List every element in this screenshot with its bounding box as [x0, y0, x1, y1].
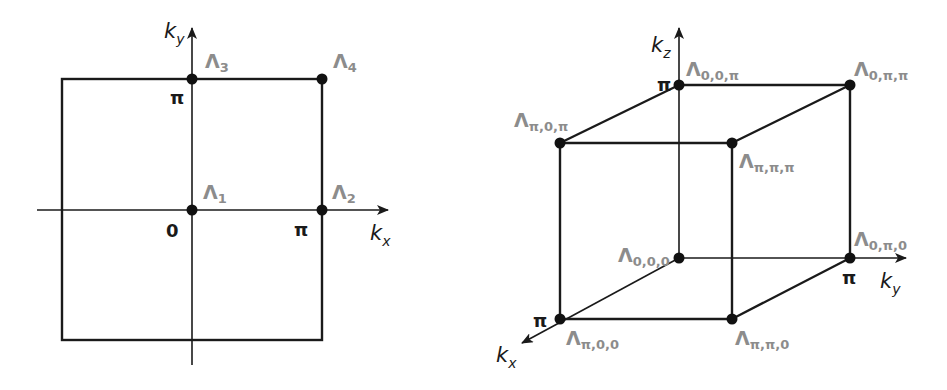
ky-axis-label-2d: ky — [164, 19, 185, 47]
point-lambda-0pipi — [845, 80, 856, 91]
kx-axis-label-3d: kx — [496, 343, 517, 371]
point-lambda-pipipi — [727, 138, 738, 149]
ky-pi-tick-2d: π — [170, 87, 184, 108]
figure-3d: kz ky kx π π π Λ0,0,0 Λ0,π,0 Λ0,0,π Λ0,π… — [496, 28, 908, 371]
ky-pi-tick-3d: π — [842, 267, 856, 288]
point-lambda-1 — [187, 205, 198, 216]
point-lambda-000 — [674, 253, 685, 264]
label-lambda-pi00: Λπ,0,0 — [566, 327, 619, 352]
point-lambda-2 — [317, 205, 328, 216]
kx-pi-tick-3d: π — [533, 310, 547, 331]
point-lambda-3 — [187, 74, 198, 85]
label-lambda-0pi0: Λ0,π,0 — [854, 228, 907, 253]
label-lambda-pi0pi: Λπ,0,π — [514, 109, 568, 134]
point-lambda-0pi0 — [845, 253, 856, 264]
point-lambda-4 — [317, 74, 328, 85]
label-lambda-1: Λ1 — [203, 181, 227, 206]
label-lambda-pipipi: Λπ,π,π — [739, 150, 794, 175]
kx-pi-tick-2d: π — [294, 219, 308, 240]
point-lambda-pipi0 — [727, 314, 738, 325]
kz-pi-tick-3d: π — [657, 74, 671, 95]
figure-2d: ky kx 0 π π Λ1 Λ2 Λ3 Λ4 — [37, 19, 391, 365]
origin-tick-2d: 0 — [166, 220, 179, 241]
label-lambda-4: Λ4 — [333, 50, 357, 75]
label-lambda-000: Λ0,0,0 — [618, 244, 670, 269]
label-lambda-00pi: Λ0,0,π — [686, 58, 739, 83]
point-lambda-00pi — [674, 80, 685, 91]
cube-edges — [560, 85, 850, 319]
brillouin-zone-diagram: ky kx 0 π π Λ1 Λ2 Λ3 Λ4 — [0, 0, 947, 390]
label-lambda-3: Λ3 — [205, 50, 229, 75]
point-lambda-pi00 — [555, 314, 566, 325]
ky-axis-label-3d: ky — [880, 269, 901, 297]
point-lambda-pi0pi — [555, 138, 566, 149]
kz-axis-label-3d: kz — [651, 33, 671, 61]
label-lambda-2: Λ2 — [332, 181, 356, 206]
kx-axis-label-2d: kx — [370, 221, 391, 249]
label-lambda-0pipi: Λ0,π,π — [854, 58, 908, 83]
label-lambda-pipi0: Λπ,π,0 — [735, 327, 789, 352]
